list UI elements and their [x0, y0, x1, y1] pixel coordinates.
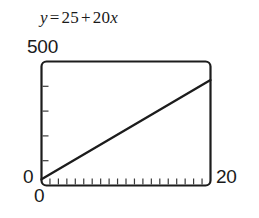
y-axis-ticks: [43, 86, 49, 160]
data-line-series: [42, 80, 211, 179]
x-axis-ticks: [50, 179, 202, 185]
plot-frame-box: [42, 62, 211, 186]
line-graph-figure: y=25+20x 500 0 0 20: [0, 0, 259, 218]
plot-area: [0, 0, 259, 218]
